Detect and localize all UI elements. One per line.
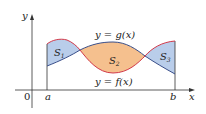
area-between-curves-diagram: y x 0 a b y = g(x) y = f(x) S1 S2 S3	[0, 0, 206, 114]
g-curve-label: y = g(x)	[94, 29, 135, 40]
x-axis-label: x	[189, 91, 195, 102]
f-curve-label: y = f(x)	[94, 76, 133, 87]
b-label: b	[170, 91, 176, 102]
origin-label: 0	[24, 91, 30, 102]
y-axis-arrow-icon	[30, 14, 34, 20]
y-axis-label: y	[21, 10, 28, 21]
a-label: a	[45, 91, 51, 102]
